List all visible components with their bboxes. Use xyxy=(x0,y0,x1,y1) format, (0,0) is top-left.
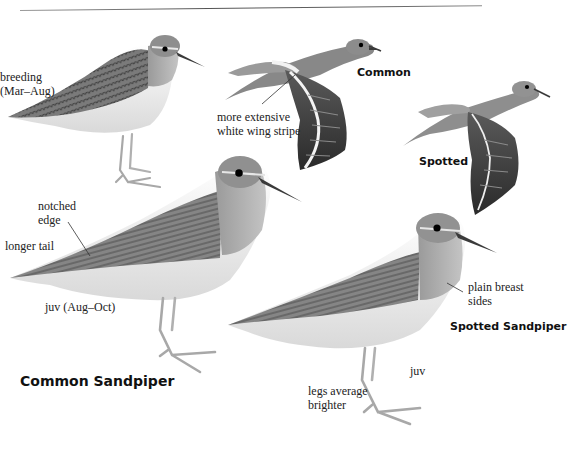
plain-breast-annotation-line2: sides xyxy=(468,294,492,308)
notched-edge-annotation-line1: notched xyxy=(38,199,76,213)
common-sandpiper-flight-figure xyxy=(225,39,381,170)
spotted-sandpiper-title: Spotted Sandpiper xyxy=(450,320,567,333)
legs-annotation-line2: brighter xyxy=(308,398,346,412)
common-sandpiper-title: Common Sandpiper xyxy=(20,373,174,389)
wing-stripe-annotation-line2: white wing stripe xyxy=(217,124,300,138)
wing-stripe-annotation-line1: more extensive xyxy=(217,110,290,124)
longer-tail-annotation: longer tail xyxy=(5,239,54,253)
spotted-juv-caption: juv xyxy=(410,364,425,378)
common-juv-caption: juv (Aug–Oct) xyxy=(45,300,115,314)
field-guide-plate: breeding (Mar–Aug) Common more extensive… xyxy=(0,0,577,452)
common-flight-label: Common xyxy=(357,66,411,79)
notched-edge-annotation-line2: edge xyxy=(38,213,61,227)
spotted-sandpiper-flight-figure xyxy=(403,81,550,215)
legs-annotation-line1: legs average xyxy=(308,384,368,398)
common-sandpiper-breeding-figure xyxy=(8,35,205,187)
spotted-flight-label: Spotted xyxy=(419,155,468,168)
plain-breast-annotation-line1: plain breast xyxy=(468,280,524,294)
common-sandpiper-juvenile-figure xyxy=(10,156,302,372)
breeding-label: breeding xyxy=(0,70,42,84)
breeding-dates-label: (Mar–Aug) xyxy=(0,84,55,98)
